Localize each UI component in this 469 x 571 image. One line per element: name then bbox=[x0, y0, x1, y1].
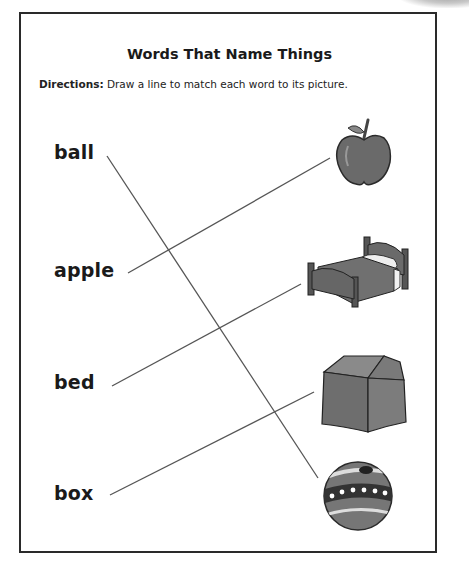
box-icon[interactable] bbox=[320, 352, 414, 436]
line-bed-to-bed[interactable] bbox=[112, 284, 301, 386]
apple-icon[interactable] bbox=[334, 116, 394, 188]
line-box-to-box[interactable] bbox=[110, 392, 314, 495]
line-apple-to-apple[interactable] bbox=[128, 158, 330, 273]
ball-icon[interactable] bbox=[322, 460, 394, 532]
bed-icon[interactable] bbox=[302, 229, 414, 309]
line-ball-to-ball[interactable] bbox=[107, 156, 318, 478]
